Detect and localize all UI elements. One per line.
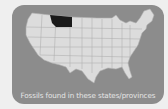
us-map (12, 5, 164, 91)
map-caption: Fossils found in these states/provinces (12, 91, 164, 100)
fossil-range-card: Fossils found in these states/provinces (12, 5, 164, 104)
us-land (26, 9, 154, 83)
